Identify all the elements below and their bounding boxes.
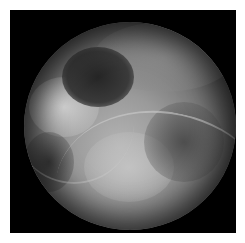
image-frame [10, 10, 236, 233]
endoscopic-view [24, 22, 236, 230]
lens-vignette [24, 22, 236, 230]
